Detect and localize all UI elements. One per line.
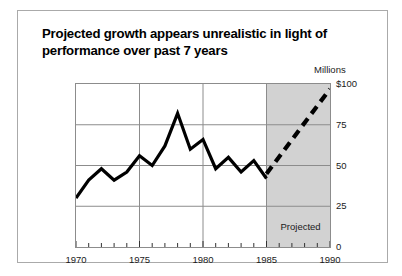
plot-area: 0255075$10019701975198019851990Projected — [75, 83, 331, 248]
chart-figure-border: Projected growth appears unrealistic in … — [17, 10, 388, 263]
x-axis-tick-label: 1990 — [319, 254, 340, 265]
projected-band-label: Projected — [281, 221, 321, 232]
x-axis-tick-label: 1980 — [192, 254, 213, 265]
y-axis-tick-label: 75 — [336, 119, 347, 130]
x-axis-tick-label: 1975 — [129, 254, 150, 265]
y-axis-tick-label: 25 — [336, 200, 347, 211]
y-axis-units-label: Millions — [314, 64, 346, 75]
y-axis-tick-label: $100 — [336, 78, 357, 89]
chart-title: Projected growth appears unrealistic in … — [42, 25, 352, 59]
x-axis-tick-label: 1970 — [65, 254, 86, 265]
y-axis-tick-label: 50 — [336, 160, 347, 171]
y-axis-tick-label: 0 — [336, 241, 341, 252]
x-axis-tick-label: 1985 — [256, 254, 277, 265]
actual-line-series — [76, 113, 267, 198]
